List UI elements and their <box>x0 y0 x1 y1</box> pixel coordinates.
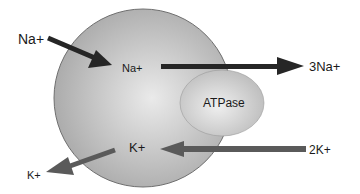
k-influx-arrow-icon <box>160 141 306 157</box>
label-na-inside: Na+ <box>122 62 143 74</box>
label-2k-in: 2K+ <box>309 143 331 157</box>
label-k-outside: K+ <box>27 169 41 181</box>
na-k-pump-diagram: Na+ Na+ 3Na+ ATPase K+ 2K+ K+ <box>0 0 360 194</box>
label-atpase: ATPase <box>203 96 245 110</box>
label-k-inside: K+ <box>129 140 145 155</box>
label-na-outside: Na+ <box>18 31 44 47</box>
label-3na-out: 3Na+ <box>309 59 340 74</box>
